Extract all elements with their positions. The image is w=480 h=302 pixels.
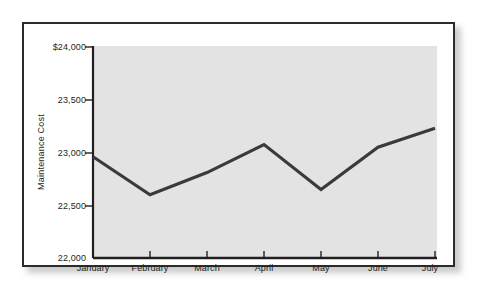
y-tick-label-24000: $24,000 — [36, 42, 86, 52]
x-tick-label-january: January — [77, 263, 110, 273]
y-tick-label-22000: 22,000 — [36, 253, 86, 263]
chart-figure: $24,000 23,500 23,000 22,500 22,000 Janu… — [0, 0, 480, 302]
x-tick-label-april: April — [255, 263, 274, 273]
x-tick-label-february: February — [132, 263, 169, 273]
x-tick-label-may: May — [312, 263, 329, 273]
x-tick-label-july: July — [422, 263, 438, 273]
y-axis-title: Maintenance Cost — [36, 102, 46, 202]
y-axis-ticks — [85, 47, 93, 206]
y-tick-label-22500: 22,500 — [36, 201, 86, 211]
plot-area-background — [93, 46, 437, 258]
x-tick-label-march: March — [194, 263, 220, 273]
x-tick-label-june: June — [368, 263, 388, 273]
